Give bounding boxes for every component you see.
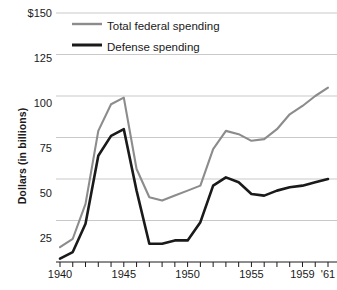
x-axis-tick-label: 1959 bbox=[290, 269, 314, 280]
legend-label-total-federal-spending: Total federal spending bbox=[107, 21, 220, 33]
y-axis-tick-label: $150 bbox=[28, 8, 52, 19]
y-axis-tick-label: 100 bbox=[34, 98, 52, 109]
x-axis-tick-label: '61 bbox=[321, 269, 335, 280]
x-axis-tick-label: 1955 bbox=[239, 269, 263, 280]
series-line-defense-spending bbox=[60, 129, 328, 258]
x-axis-tick-label: 1940 bbox=[48, 269, 72, 280]
y-axis-tick-label: 75 bbox=[40, 143, 52, 154]
data-series bbox=[60, 88, 328, 259]
x-axis-tick-label: 1950 bbox=[175, 269, 199, 280]
x-axis-tick-label: 1945 bbox=[112, 269, 136, 280]
line-chart: Dollars (in billions) $150 125 100 75 50… bbox=[0, 0, 337, 290]
y-axis-tick-label: 25 bbox=[40, 233, 52, 244]
y-axis-tick-label: 125 bbox=[34, 53, 52, 64]
legend-label-defense-spending: Defense spending bbox=[107, 42, 200, 54]
series-line-total-federal-spending bbox=[60, 88, 328, 247]
plot-area: Total federal spending Defense spending … bbox=[56, 0, 337, 290]
x-axis-ticks bbox=[60, 262, 328, 267]
y-axis-tick-label: 50 bbox=[40, 188, 52, 199]
y-axis-tick-labels: $150 125 100 75 50 25 bbox=[0, 0, 52, 290]
legend-swatches bbox=[72, 24, 102, 45]
